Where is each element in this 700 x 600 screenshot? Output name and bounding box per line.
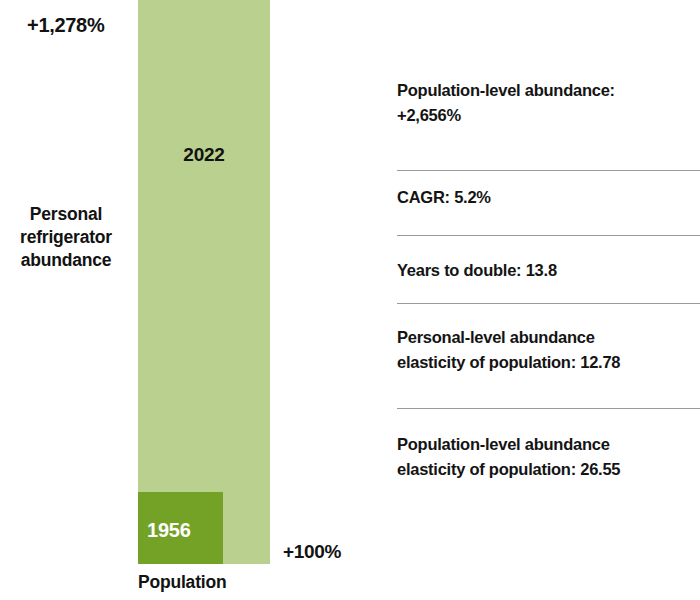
stat-text: Personal-level abundance elasticity of p… <box>397 325 700 375</box>
bar-label-1956: 1956 <box>147 519 191 542</box>
bar-chart: 2022 1956 +1,278% +100% Personal refrige… <box>0 0 390 600</box>
stat-divider <box>397 235 700 236</box>
x-axis-label: Population <box>138 572 226 593</box>
stat-divider <box>397 303 700 304</box>
stat-divider <box>397 408 700 409</box>
stat-row-cagr: CAGR: 5.2% <box>397 185 700 210</box>
statistics-panel: Population-level abundance: +2,656% CAGR… <box>397 0 700 600</box>
stat-text: Population-level abundance elasticity of… <box>397 432 700 482</box>
y-axis-label: Personal refrigerator abundance <box>0 203 132 272</box>
stat-row-personal-level-elasticity: Personal-level abundance elasticity of p… <box>397 325 700 375</box>
bar-2022 <box>138 0 270 564</box>
stat-text: Population-level abundance: +2,656% <box>397 78 700 128</box>
stat-text: CAGR: 5.2% <box>397 185 700 210</box>
percent-annotation-top-left: +1,278% <box>27 14 104 37</box>
stat-divider <box>397 170 700 171</box>
stat-text: Years to double: 13.8 <box>397 258 700 283</box>
stat-row-years-to-double: Years to double: 13.8 <box>397 258 700 283</box>
stat-row-population-level-elasticity: Population-level abundance elasticity of… <box>397 432 700 482</box>
bar-label-2022: 2022 <box>138 144 270 166</box>
stat-row-population-level-abundance: Population-level abundance: +2,656% <box>397 78 700 128</box>
percent-annotation-bottom-right: +100% <box>283 541 341 563</box>
